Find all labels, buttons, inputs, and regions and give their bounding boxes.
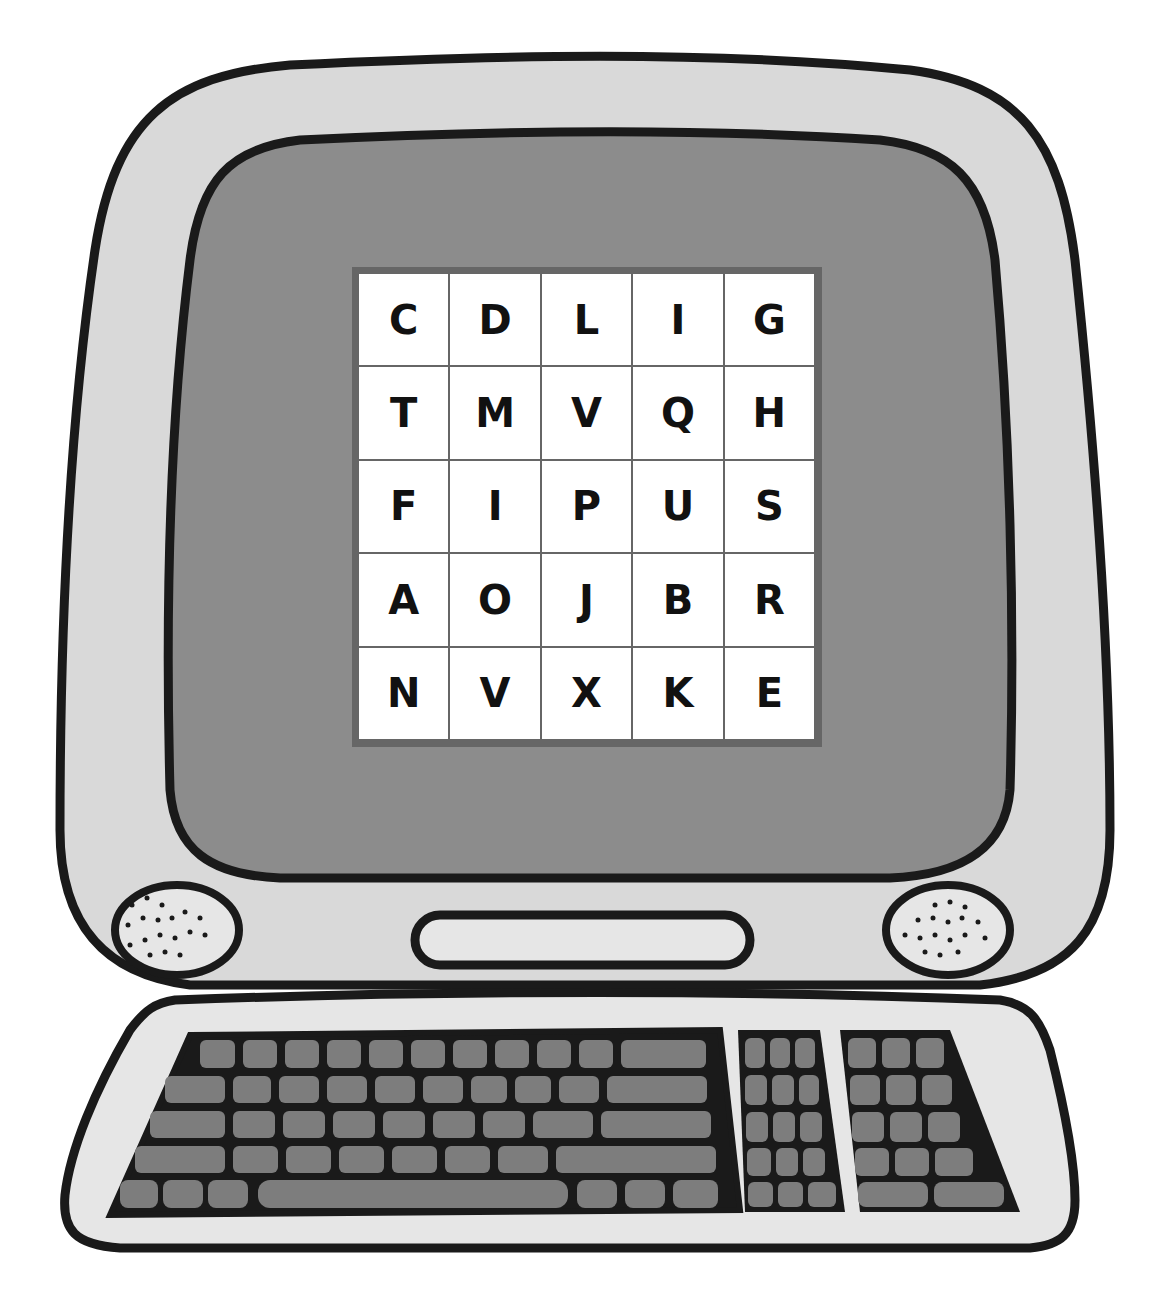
letter-grid: C D L I G T M V Q H F I P U S A O J B R … bbox=[352, 267, 822, 747]
grid-cell[interactable]: J bbox=[542, 554, 631, 645]
grid-cell[interactable]: F bbox=[359, 461, 448, 552]
grid-cell[interactable]: O bbox=[450, 554, 539, 645]
grid-cell[interactable]: S bbox=[725, 461, 814, 552]
grid-cell[interactable]: Q bbox=[633, 367, 722, 458]
right-speaker bbox=[886, 885, 1010, 975]
grid-cell[interactable]: B bbox=[633, 554, 722, 645]
grid-cell[interactable]: N bbox=[359, 648, 448, 739]
grid-cell[interactable]: V bbox=[450, 648, 539, 739]
grid-cell[interactable]: V bbox=[542, 367, 631, 458]
disc-slot bbox=[415, 915, 750, 965]
grid-cell[interactable]: L bbox=[542, 274, 631, 365]
grid-cell[interactable]: U bbox=[633, 461, 722, 552]
grid-cell[interactable]: I bbox=[450, 461, 539, 552]
grid-cell[interactable]: C bbox=[359, 274, 448, 365]
grid-cell[interactable]: H bbox=[725, 367, 814, 458]
grid-cell[interactable]: K bbox=[633, 648, 722, 739]
grid-cell[interactable]: X bbox=[542, 648, 631, 739]
grid-cell[interactable]: A bbox=[359, 554, 448, 645]
left-speaker bbox=[115, 885, 239, 975]
grid-cell[interactable]: T bbox=[359, 367, 448, 458]
grid-cell[interactable]: R bbox=[725, 554, 814, 645]
grid-cell[interactable]: D bbox=[450, 274, 539, 365]
grid-cell[interactable]: E bbox=[725, 648, 814, 739]
grid-cell[interactable]: M bbox=[450, 367, 539, 458]
grid-cell[interactable]: I bbox=[633, 274, 722, 365]
grid-cell[interactable]: P bbox=[542, 461, 631, 552]
grid-cell[interactable]: G bbox=[725, 274, 814, 365]
